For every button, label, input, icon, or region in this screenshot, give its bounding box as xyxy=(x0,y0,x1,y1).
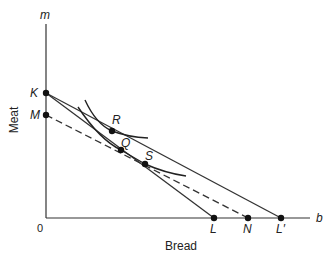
origin-label: 0 xyxy=(37,222,43,234)
y-axis-title: Meat xyxy=(7,106,21,133)
label-R: R xyxy=(112,113,121,127)
point-N xyxy=(245,215,251,221)
indifference-curve-lower xyxy=(78,107,186,176)
compensated-budget-line-MN xyxy=(46,115,248,218)
label-K: K xyxy=(30,86,39,100)
point-L xyxy=(211,215,217,221)
point-R xyxy=(109,128,115,134)
point-M xyxy=(43,112,49,118)
label-N: N xyxy=(243,222,252,236)
label-M: M xyxy=(30,108,40,122)
x-axis-title: Bread xyxy=(165,239,197,253)
label-Lprime: L′ xyxy=(276,222,286,236)
diagram-canvas: m b 0 K M R Q S L N L′ Bread Meat xyxy=(0,0,332,260)
label-Q: Q xyxy=(121,136,130,150)
y-axis-symbol: m xyxy=(40,8,50,22)
label-L: L xyxy=(210,222,217,236)
x-axis-symbol: b xyxy=(316,211,323,225)
point-Lprime xyxy=(278,215,284,221)
label-S: S xyxy=(145,149,153,163)
point-K xyxy=(43,90,49,96)
